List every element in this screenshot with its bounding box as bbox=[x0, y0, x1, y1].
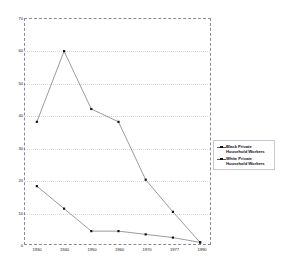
y-tick-label: 70 bbox=[19, 17, 23, 21]
data-point-marker bbox=[63, 50, 65, 52]
data-point-marker bbox=[199, 241, 201, 243]
data-point-marker bbox=[145, 179, 147, 181]
y-tick-label: 40 bbox=[19, 114, 23, 118]
data-point-marker bbox=[117, 121, 119, 123]
x-tick-label: 1977 bbox=[170, 248, 179, 252]
data-point-marker bbox=[90, 108, 92, 110]
y-tick-label: 30 bbox=[19, 147, 23, 151]
legend-line-marker-icon bbox=[217, 157, 226, 163]
y-tick-label: 10 bbox=[19, 211, 23, 215]
data-point-marker bbox=[172, 236, 174, 238]
y-tick-label: 0 bbox=[21, 244, 23, 248]
x-tick-label: 1970 bbox=[143, 248, 152, 252]
x-tick-label: 1960 bbox=[115, 248, 124, 252]
legend-item-black-private-household-workers: Black Private Household Workers bbox=[217, 144, 272, 154]
data-point-marker bbox=[36, 121, 38, 123]
chart-figure: 010203040506070 193019401950196019701977… bbox=[0, 0, 281, 271]
x-tick-label: 1950 bbox=[88, 248, 97, 252]
legend-item-white-private-household-workers: White Private Household Workers bbox=[217, 156, 272, 166]
series-plot bbox=[25, 19, 210, 244]
x-tick-label: 1930 bbox=[33, 248, 42, 252]
legend-item-label: White Private Household Workers bbox=[226, 156, 272, 166]
data-series bbox=[36, 50, 201, 243]
data-point-marker bbox=[63, 208, 65, 210]
data-series bbox=[36, 185, 201, 243]
data-point-marker bbox=[117, 230, 119, 232]
y-tick-label: 20 bbox=[19, 179, 23, 183]
y-tick-label: 60 bbox=[19, 49, 23, 53]
legend-line-marker-icon bbox=[217, 145, 226, 151]
chart-legend: Black Private Household Workers White Pr… bbox=[213, 140, 275, 170]
data-point-marker bbox=[36, 185, 38, 187]
plot-area: 010203040506070 193019401950196019701977… bbox=[24, 18, 211, 245]
data-point-marker bbox=[145, 233, 147, 235]
legend-item-label: Black Private Household Workers bbox=[226, 144, 272, 154]
x-tick-label: 1990 bbox=[198, 248, 207, 252]
series-line bbox=[37, 51, 200, 242]
data-point-marker bbox=[90, 230, 92, 232]
x-tick-label: 1940 bbox=[60, 248, 69, 252]
data-point-marker bbox=[172, 211, 174, 213]
y-tick-label: 50 bbox=[19, 82, 23, 86]
series-line bbox=[37, 186, 200, 242]
